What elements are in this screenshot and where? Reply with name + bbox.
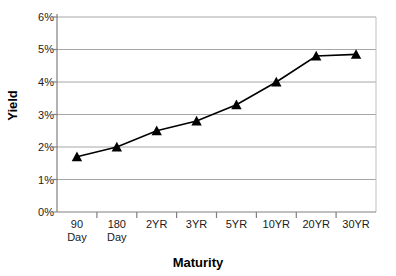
yield-curve-chart: Yield 6% 5% 4% 3% 2% 1% 0% (0, 0, 396, 276)
x-tick-label-3yr: 3YR (177, 218, 217, 258)
x-tick-label-30yr: 30YR (336, 218, 376, 258)
x-tick-label-2yr: 2YR (137, 218, 177, 258)
y-axis-ticks (52, 17, 57, 180)
x-axis-title: Maturity (0, 255, 396, 270)
x-tick-label-10yr: 10YR (256, 218, 296, 258)
x-tick-label-20yr: 20YR (296, 218, 336, 258)
x-tick-label-180-day: 180Day (97, 218, 137, 258)
x-tick-label-90-day: 90Day (57, 218, 97, 258)
x-axis-tick-labels: 90Day 180Day 2YR 3YR 5YR 10YR 20YR 30YR (57, 218, 376, 258)
x-tick-label-5yr: 5YR (217, 218, 257, 258)
